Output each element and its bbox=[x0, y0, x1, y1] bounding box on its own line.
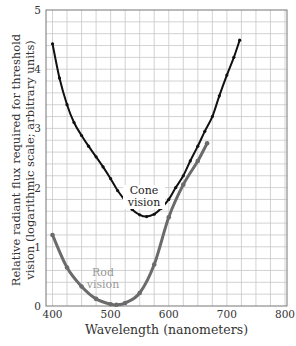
x-axis-label: Wavelength (nanometers) bbox=[46, 322, 287, 337]
x-tick-label: 800 bbox=[275, 308, 295, 320]
data-point-marker bbox=[203, 130, 206, 133]
data-point-marker bbox=[153, 213, 156, 216]
data-point-marker bbox=[174, 186, 177, 189]
data-point-marker bbox=[152, 262, 157, 267]
y-axis-label-line-1: Relative radiant flux required for thres… bbox=[9, 34, 23, 286]
data-point-marker bbox=[232, 56, 235, 59]
x-tick-label: 500 bbox=[101, 308, 121, 320]
data-point-marker bbox=[94, 297, 99, 302]
data-point-marker bbox=[101, 165, 104, 168]
data-point-marker bbox=[189, 159, 192, 162]
x-tick-label: 400 bbox=[42, 308, 62, 320]
data-point-marker bbox=[211, 115, 214, 118]
data-point-marker bbox=[225, 74, 228, 77]
data-point-marker bbox=[137, 291, 142, 296]
data-point-marker bbox=[58, 76, 61, 79]
data-point-marker bbox=[109, 177, 112, 180]
y-axis-label: Relative radiant flux required for thres… bbox=[3, 10, 43, 310]
plot-frame bbox=[46, 10, 287, 306]
data-point-marker bbox=[114, 303, 119, 308]
annotation-cone-line-2: vision bbox=[123, 197, 165, 209]
data-point-marker bbox=[94, 155, 97, 158]
annotation-cone-vision: Cone vision bbox=[123, 185, 165, 209]
data-point-marker bbox=[166, 215, 171, 220]
data-point-marker bbox=[123, 301, 128, 306]
data-point-marker bbox=[51, 42, 54, 45]
data-point-marker bbox=[72, 121, 75, 124]
data-point-marker bbox=[182, 174, 185, 177]
data-point-marker bbox=[181, 182, 186, 187]
chart-svg: 400500600700800012345 bbox=[0, 0, 296, 346]
y-axis-label-line-2: vision (logarithmic scale; arbitrary uni… bbox=[23, 34, 37, 286]
data-point-marker bbox=[145, 215, 148, 218]
data-point-marker bbox=[87, 145, 90, 148]
annotation-rod-vision: Rod vision bbox=[82, 267, 124, 291]
grid bbox=[46, 10, 287, 306]
data-point-marker bbox=[167, 198, 170, 201]
x-tick-label: 700 bbox=[217, 308, 237, 320]
x-tick-label: 600 bbox=[159, 308, 179, 320]
data-point-marker bbox=[196, 145, 199, 148]
data-point-marker bbox=[196, 159, 201, 164]
data-point-marker bbox=[116, 189, 119, 192]
data-point-marker bbox=[108, 302, 113, 307]
data-point-marker bbox=[205, 141, 210, 146]
data-point-marker bbox=[50, 233, 55, 238]
data-point-marker bbox=[80, 134, 83, 137]
data-point-marker bbox=[65, 265, 70, 270]
data-point-marker bbox=[218, 94, 221, 97]
rod-vision-curve bbox=[53, 143, 208, 305]
data-point-marker bbox=[138, 213, 141, 216]
data-point-marker bbox=[65, 103, 68, 106]
annotation-rod-line-2: vision bbox=[82, 279, 124, 291]
data-point-marker bbox=[238, 39, 241, 42]
